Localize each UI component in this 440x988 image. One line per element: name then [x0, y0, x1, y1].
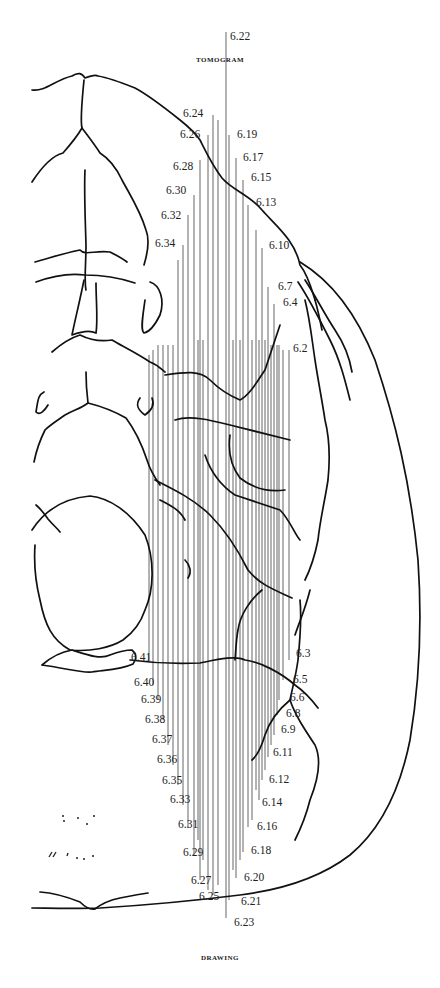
central-contour-3 — [155, 480, 292, 598]
label-6-8: 6.8 — [286, 707, 301, 719]
label-6-4: 6.4 — [283, 296, 298, 308]
label-6-27: 6.27 — [191, 874, 211, 886]
maxilla-outline — [52, 335, 165, 372]
label-6-19: 6.19 — [237, 128, 257, 140]
suture-transverse-1 — [35, 250, 127, 262]
small-bone-right — [138, 398, 154, 415]
label-6-36: 6.36 — [157, 753, 177, 765]
label-6-14: 6.14 — [262, 796, 282, 808]
label-6-9: 6.9 — [281, 723, 296, 735]
label-6-10: 6.10 — [269, 239, 289, 251]
suture-right-upper — [82, 128, 148, 265]
label-6-20: 6.20 — [244, 871, 264, 883]
caption-drawing: Drawing — [0, 951, 440, 962]
sphenoid-line — [175, 418, 290, 440]
label-6-13: 6.13 — [256, 196, 276, 208]
label-6-17: 6.17 — [243, 151, 263, 163]
label-6-7: 6.7 — [278, 280, 293, 292]
central-contour-4 — [160, 500, 185, 520]
label-6-21: 6.21 — [241, 895, 261, 907]
label-6-37: 6.37 — [152, 733, 172, 745]
label-6-28: 6.28 — [173, 160, 193, 172]
nasal-bone — [72, 280, 97, 335]
label-6-39: 6.39 — [141, 693, 161, 705]
zygomatic-lower — [295, 590, 310, 635]
suture-left-upper — [32, 80, 84, 182]
label-6-26: 6.26 — [180, 128, 200, 140]
label-6-41: 6.41 — [131, 651, 151, 663]
orbit-frag — [142, 282, 162, 333]
label-6-3: 6.3 — [296, 647, 311, 659]
zygomatic-inner — [305, 300, 329, 580]
caption-drawing-text: Drawing — [201, 951, 239, 962]
label-6-12: 6.12 — [269, 773, 289, 785]
label-6-32: 6.32 — [161, 209, 181, 221]
zygomatic-outer-2 — [305, 280, 352, 372]
label-6-40: 6.40 — [134, 676, 154, 688]
label-6-33: 6.33 — [170, 793, 190, 805]
label-6-25: 6.25 — [199, 890, 219, 902]
skull-diagram: 6.22 6.24 6.26 6.19 6.28 6.17 6.30 6.15 … — [0, 0, 440, 988]
label-6-29: 6.29 — [183, 846, 203, 858]
label-6-18: 6.18 — [251, 844, 271, 856]
label-6-16: 6.16 — [257, 820, 277, 832]
label-6-11: 6.11 — [273, 746, 293, 758]
label-6-31: 6.31 — [178, 818, 198, 830]
central-contour-5 — [235, 590, 262, 660]
foramen-magnum — [32, 496, 152, 651]
tooth-marks — [49, 815, 95, 860]
label-6-24: 6.24 — [183, 107, 203, 119]
palate-left — [34, 372, 88, 462]
label-6-23: 6.23 — [234, 916, 254, 928]
label-6-2: 6.2 — [293, 342, 308, 354]
label-6-38: 6.38 — [145, 713, 165, 725]
label-6-22: 6.22 — [230, 30, 250, 42]
label-6-6: 6.6 — [290, 691, 305, 703]
label-6-5: 6.5 — [293, 673, 308, 685]
small-bone-left — [36, 392, 48, 413]
label-6-35: 6.35 — [162, 774, 182, 786]
zygomatic-frag — [315, 300, 322, 330]
mandible-ramus — [290, 600, 319, 840]
suture-lower-left — [36, 505, 60, 532]
label-6-30: 6.30 — [166, 184, 186, 196]
central-contour-1 — [165, 325, 280, 400]
label-6-15: 6.15 — [251, 171, 271, 183]
label-6-34: 6.34 — [155, 237, 175, 249]
condyle-base — [42, 650, 136, 672]
midline-suture — [85, 170, 86, 290]
central-contour-2 — [205, 455, 300, 540]
